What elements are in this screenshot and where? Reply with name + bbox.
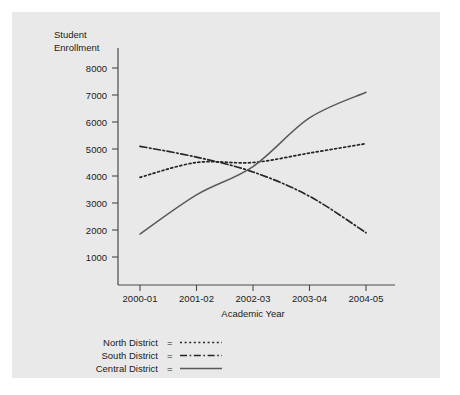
y-tick-label: 5000	[86, 144, 107, 155]
y-axis-title-line1: Student	[54, 29, 87, 40]
series-line-south-district	[140, 146, 366, 232]
x-tick-label: 2002-03	[236, 293, 271, 304]
chart-figure: Student Enrollment 100020003000400050006…	[0, 0, 460, 395]
legend-equals: =	[167, 337, 173, 348]
series-paths	[140, 92, 366, 234]
y-tick-label: 8000	[86, 63, 107, 74]
x-axis-ticks: 2000-012001-022002-032003-042004-05	[123, 285, 384, 304]
legend-label: Central District	[96, 363, 159, 374]
x-tick-label: 2000-01	[123, 293, 158, 304]
y-axis-ticks: 10002000300040005000600070008000	[86, 63, 118, 263]
x-tick-label: 2004-05	[349, 293, 384, 304]
y-tick-label: 7000	[86, 90, 107, 101]
x-tick-label: 2001-02	[179, 293, 214, 304]
y-tick-label: 6000	[86, 117, 107, 128]
y-tick-label: 2000	[86, 225, 107, 236]
x-axis-title: Academic Year	[221, 308, 284, 319]
y-tick-label: 3000	[86, 198, 107, 209]
legend-label: South District	[102, 350, 159, 361]
legend-label: North District	[103, 337, 158, 348]
line-chart: Student Enrollment 100020003000400050006…	[0, 0, 460, 395]
legend-equals: =	[167, 350, 173, 361]
y-tick-label: 4000	[86, 171, 107, 182]
chart-legend: North District=South District=Central Di…	[96, 337, 222, 374]
y-axis-title-line2: Enrollment	[54, 42, 100, 53]
x-tick-label: 2003-04	[292, 293, 327, 304]
y-tick-label: 1000	[86, 252, 107, 263]
legend-equals: =	[167, 363, 173, 374]
